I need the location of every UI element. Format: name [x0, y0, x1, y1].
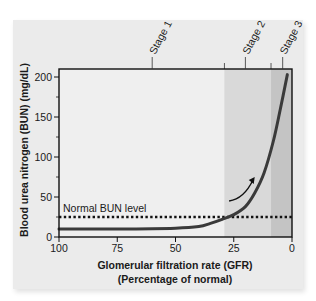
stage-region: [271, 69, 292, 237]
y-tick-label: 50: [40, 191, 52, 203]
y-tick-label: 200: [34, 71, 52, 83]
stage-label: Stage 3: [277, 18, 305, 56]
stage-region: [224, 69, 271, 237]
bun-gfr-chart: Normal BUN level 1007550250 050100150200…: [0, 0, 316, 301]
reference-line-label: Normal BUN level: [63, 202, 146, 214]
y-tick-label: 150: [34, 111, 52, 123]
stage-labels: Stage 1Stage 2Stage 3: [146, 18, 304, 69]
y-tick-label: 100: [34, 151, 52, 163]
x-axis-title: Glomerular filtration rate (GFR): [97, 259, 252, 271]
stage-label: Stage 1: [146, 18, 174, 56]
x-axis-subtitle: (Percentage of normal): [118, 273, 232, 285]
x-tick-label: 75: [111, 242, 123, 254]
y-axis-ticks: 050100150200: [34, 71, 59, 243]
y-tick-label: 0: [46, 231, 52, 243]
x-tick-label: 100: [50, 242, 68, 254]
stage-label: Stage 2: [240, 18, 268, 56]
x-tick-label: 50: [170, 242, 182, 254]
x-tick-label: 25: [228, 242, 240, 254]
x-tick-label: 0: [289, 242, 295, 254]
x-axis-ticks: 1007550250: [50, 237, 295, 254]
y-axis-title: Blood urea nitrogen (BUN) (mg/dL): [18, 63, 30, 237]
